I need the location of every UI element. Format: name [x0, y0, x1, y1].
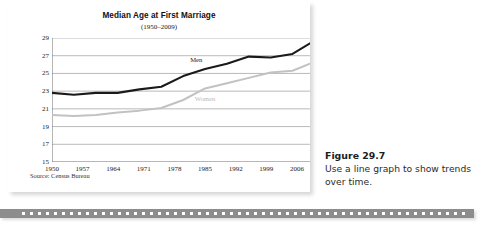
series-paths: [52, 43, 310, 116]
figure-caption-text: Use a line graph to show trends over tim…: [325, 163, 475, 188]
y-tick-label: 29: [42, 34, 49, 42]
chart-card: Median Age at First Marriage (1950–2009)…: [8, 2, 310, 192]
x-tick-label: 2006: [290, 165, 304, 173]
series-line-men: [52, 43, 310, 94]
chart-title: Median Age at First Marriage: [8, 11, 310, 20]
x-tick-label: 1964: [106, 165, 120, 173]
figure-number: Figure 29.7: [325, 150, 475, 162]
chart-subtitle: (1950–2009): [8, 23, 310, 31]
x-tick-label: 1971: [137, 165, 151, 173]
x-tick-label: 1978: [167, 165, 181, 173]
x-tick-label: 1992: [229, 165, 243, 173]
plot-area: 2927252321191715 19501957196419711978198…: [52, 38, 310, 162]
series-line-women: [52, 64, 310, 116]
line-chart-svg: [52, 38, 310, 162]
x-tick-label: 1999: [259, 165, 273, 173]
footer-dot-pattern: [22, 212, 466, 215]
x-tick-label: 1985: [198, 165, 212, 173]
y-tick-label: 19: [42, 123, 49, 131]
y-tick-label: 27: [42, 52, 49, 60]
figure-caption: Figure 29.7 Use a line graph to show tre…: [325, 150, 475, 188]
source-note: Source: Census Bureau: [30, 172, 90, 179]
y-tick-label: 25: [42, 69, 49, 77]
series-label-men: Men: [190, 56, 202, 63]
decorative-footer-band: [0, 209, 474, 218]
series-label-women: Women: [195, 95, 215, 102]
y-tick-label: 23: [42, 87, 49, 95]
gridlines: [52, 38, 310, 144]
y-tick-label: 21: [42, 105, 49, 113]
y-tick-label: 17: [42, 140, 49, 148]
